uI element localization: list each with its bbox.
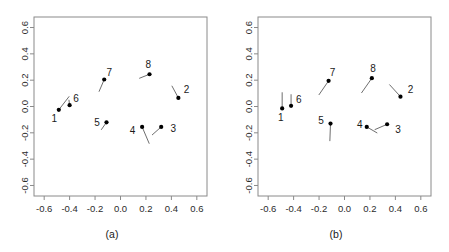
y-tick-label: -0.4 bbox=[19, 151, 30, 167]
data-point-label: 4 bbox=[130, 125, 136, 136]
x-tick-label: 0.0 bbox=[338, 203, 351, 214]
y-tick-label: 0.2 bbox=[19, 74, 30, 87]
y-tick-label: 0.0 bbox=[19, 100, 30, 113]
x-tick-label: -0.6 bbox=[260, 203, 276, 214]
data-point-label: 8 bbox=[145, 59, 151, 70]
figure-container: -0.6-0.4-0.20.00.20.40.6-0.6-0.4-0.20.00… bbox=[0, 0, 449, 252]
data-point-label: 3 bbox=[395, 124, 401, 135]
data-point-label: 2 bbox=[184, 84, 190, 95]
x-tick-label: -0.6 bbox=[36, 203, 52, 214]
plot-frame bbox=[34, 17, 207, 196]
y-tick-label: 0.6 bbox=[243, 21, 254, 34]
panel-b-caption: (b) bbox=[224, 228, 448, 240]
y-tick-label: -0.2 bbox=[19, 125, 30, 141]
x-tick-label: -0.2 bbox=[87, 203, 103, 214]
panel-b: -0.6-0.4-0.20.00.20.40.6-0.6-0.4-0.20.00… bbox=[224, 0, 448, 252]
x-tick-label: -0.2 bbox=[311, 203, 327, 214]
data-point-label: 2 bbox=[408, 84, 414, 95]
panel-a-caption: (a) bbox=[0, 228, 224, 240]
panel-a: -0.6-0.4-0.20.00.20.40.6-0.6-0.4-0.20.00… bbox=[0, 0, 224, 252]
y-tick-label: -0.6 bbox=[19, 177, 30, 193]
plot-frame bbox=[258, 17, 431, 196]
data-point-label: 8 bbox=[370, 63, 376, 74]
data-point bbox=[365, 125, 369, 129]
data-point bbox=[102, 77, 106, 81]
x-tick-label: 0.6 bbox=[414, 203, 427, 214]
data-point-label: 4 bbox=[357, 119, 363, 130]
data-point-label: 6 bbox=[73, 93, 79, 104]
data-point bbox=[68, 103, 72, 107]
data-point bbox=[159, 125, 163, 129]
x-tick-label: -0.4 bbox=[285, 203, 301, 214]
data-point bbox=[147, 72, 151, 76]
data-point bbox=[370, 76, 374, 80]
x-tick-label: 0.4 bbox=[389, 203, 402, 214]
y-tick-label: 0.4 bbox=[19, 47, 30, 60]
data-point-label: 6 bbox=[296, 94, 302, 105]
data-point-label: 5 bbox=[318, 115, 324, 126]
data-point-label: 7 bbox=[330, 67, 336, 78]
x-tick-label: -0.4 bbox=[61, 203, 77, 214]
x-tick-label: 0.2 bbox=[363, 203, 376, 214]
y-tick-label: 0.2 bbox=[243, 74, 254, 87]
y-tick-label: 0.0 bbox=[243, 100, 254, 113]
data-point bbox=[140, 125, 144, 129]
x-tick-label: 0.2 bbox=[139, 203, 152, 214]
x-tick-label: 0.4 bbox=[165, 203, 178, 214]
data-point bbox=[289, 104, 293, 108]
data-point bbox=[104, 120, 108, 124]
data-point-label: 3 bbox=[171, 123, 177, 134]
data-point-label: 7 bbox=[107, 67, 113, 78]
data-point-label: 1 bbox=[278, 112, 284, 123]
data-point bbox=[176, 96, 180, 100]
data-point bbox=[280, 106, 284, 110]
x-tick-label: 0.6 bbox=[190, 203, 203, 214]
x-tick-label: 0.0 bbox=[114, 203, 127, 214]
plot-a: -0.6-0.4-0.20.00.20.40.6-0.6-0.4-0.20.00… bbox=[0, 0, 224, 252]
point-tail bbox=[330, 124, 331, 141]
data-point-label: 5 bbox=[94, 117, 100, 128]
y-tick-label: -0.4 bbox=[243, 151, 254, 167]
y-tick-label: -0.6 bbox=[243, 177, 254, 193]
data-point bbox=[398, 95, 402, 99]
data-point-label: 1 bbox=[52, 113, 58, 124]
plot-b: -0.6-0.4-0.20.00.20.40.6-0.6-0.4-0.20.00… bbox=[224, 0, 448, 252]
y-tick-label: -0.2 bbox=[243, 125, 254, 141]
data-point bbox=[326, 79, 330, 83]
y-tick-label: 0.6 bbox=[19, 21, 30, 34]
data-point bbox=[57, 108, 61, 112]
data-point bbox=[385, 122, 389, 126]
y-tick-label: 0.4 bbox=[243, 47, 254, 60]
data-point bbox=[328, 122, 332, 126]
